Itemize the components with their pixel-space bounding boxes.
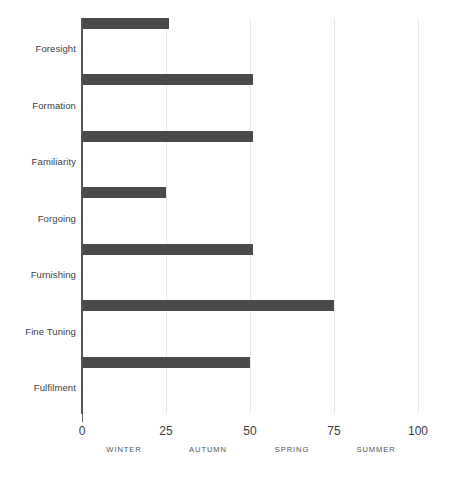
- gridline-100: [418, 18, 419, 414]
- x-axis: 0 25 50 75 100 WINTER AUTUMN SPRING SUMM…: [82, 414, 418, 484]
- plot-area: [82, 18, 418, 414]
- x-tick-label-75: 75: [327, 424, 340, 438]
- bar-forgoing[interactable]: [82, 187, 166, 198]
- x-season-label-spring: SPRING: [275, 445, 310, 454]
- y-axis-labels: Foresight Formation Familiarity Forgoing…: [0, 18, 76, 414]
- y-label-formation: Formation: [2, 100, 76, 111]
- y-label-fulfilment: Fulfilment: [2, 382, 76, 393]
- x-tick-label-50: 50: [243, 424, 256, 438]
- bar-familiarity[interactable]: [82, 131, 253, 142]
- x-season-label-summer: SUMMER: [356, 445, 395, 454]
- y-label-familiarity: Familiarity: [2, 156, 76, 167]
- x-tick-mark-0: [82, 414, 83, 422]
- y-label-furnishing: Furnishing: [2, 269, 76, 280]
- bar-formation[interactable]: [82, 74, 253, 85]
- bar-furnishing[interactable]: [82, 244, 253, 255]
- bar-fulfilment[interactable]: [82, 357, 250, 368]
- y-axis-line: [81, 18, 83, 414]
- y-label-foresight: Foresight: [2, 43, 76, 54]
- bar-fine-tuning[interactable]: [82, 300, 334, 311]
- x-tick-label-25: 25: [159, 424, 172, 438]
- bar-foresight[interactable]: [82, 18, 169, 29]
- gridline-75: [334, 18, 335, 414]
- y-label-forgoing: Forgoing: [2, 213, 76, 224]
- bar-chart: Foresight Formation Familiarity Forgoing…: [0, 0, 456, 489]
- x-tick-label-100: 100: [408, 424, 428, 438]
- x-season-label-autumn: AUTUMN: [189, 445, 227, 454]
- y-label-fine-tuning: Fine Tuning: [2, 326, 76, 337]
- x-season-label-winter: WINTER: [106, 445, 141, 454]
- x-tick-label-0: 0: [79, 424, 86, 438]
